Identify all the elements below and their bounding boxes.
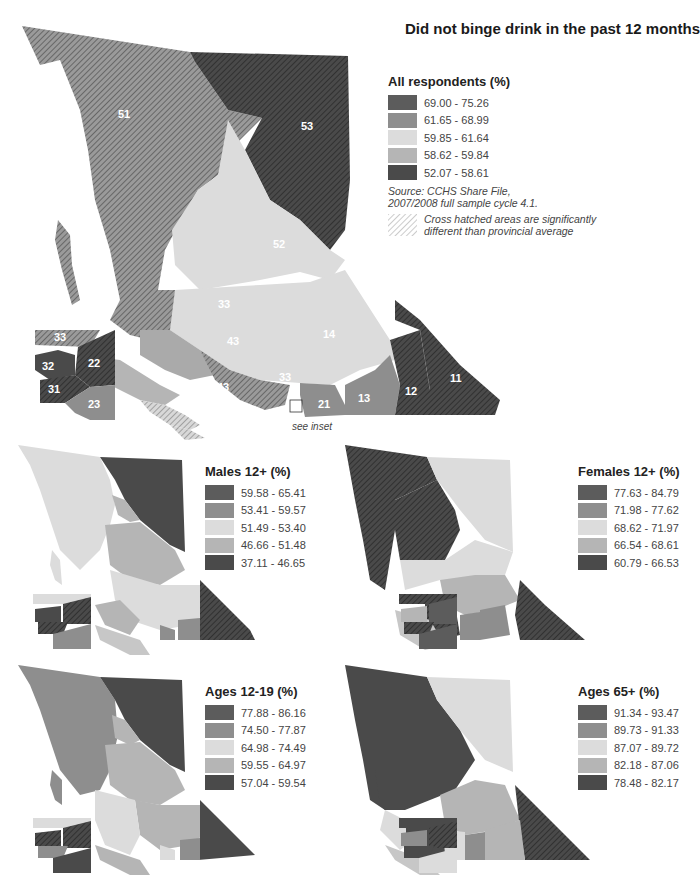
legend-label: 77.88 - 86.16 (241, 707, 306, 719)
ages-12-19-legend: Ages 12-19 (%) 77.88 - 86.16 74.50 - 77.… (205, 684, 306, 792)
legend-label: 69.00 - 75.26 (424, 97, 489, 109)
ages-65-map (345, 660, 605, 894)
inset-label-31: 31 (48, 383, 60, 395)
main-inset: 33 22 32 31 23 (30, 325, 115, 420)
inset-label-22: 22 (88, 357, 100, 369)
legend-swatch (388, 113, 417, 128)
legend-swatch (388, 148, 417, 163)
legend-label: 91.34 - 93.47 (614, 707, 679, 719)
legend-label: 74.50 - 77.87 (241, 724, 306, 736)
ages-12-19-inset (33, 818, 91, 873)
legend-label: 77.63 - 84.79 (614, 487, 679, 499)
legend-label: 78.48 - 82.17 (614, 777, 679, 789)
label-11: 11 (450, 372, 462, 384)
label-42: 42 (239, 407, 251, 419)
males-inset (33, 594, 91, 649)
label-14: 14 (323, 328, 336, 340)
region-42 (140, 400, 200, 430)
legend-title: Females 12+ (%) (578, 464, 680, 479)
legend-label: 87.07 - 89.72 (614, 742, 679, 754)
inset-marker (290, 400, 302, 412)
females-legend: Females 12+ (%) 77.63 - 84.79 71.98 - 77… (578, 464, 680, 572)
legend-label: 60.79 - 66.53 (614, 557, 679, 569)
legend-title: All respondents (%) (388, 74, 596, 89)
label-21: 21 (318, 398, 330, 410)
hatch-note-line-2: different than provincial average (424, 225, 596, 237)
legend-label: 37.11 - 46.65 (241, 557, 305, 569)
legend-label: 57.04 - 59.54 (241, 777, 306, 789)
legend-title: Males 12+ (%) (205, 464, 306, 479)
label-33a: 33 (218, 298, 230, 310)
males-legend: Males 12+ (%) 59.58 - 65.41 53.41 - 59.5… (205, 464, 306, 572)
label-52: 52 (273, 238, 285, 250)
label-13: 13 (358, 392, 370, 404)
legend-label: 46.66 - 51.48 (241, 539, 306, 551)
main-legend: All respondents (%) 69.00 - 75.26 61.65 … (388, 74, 596, 237)
inset-label-33: 33 (54, 331, 66, 343)
legend-label: 64.98 - 74.49 (241, 742, 306, 754)
females-map (345, 440, 605, 660)
hatch-note-line-1: Cross hatched areas are significantly (424, 213, 596, 225)
legend-label: 53.41 - 59.57 (241, 504, 306, 516)
haida-gwaii (55, 220, 80, 305)
inset-label-32: 32 (42, 360, 54, 372)
legend-label: 59.58 - 65.41 (241, 487, 306, 499)
legend-label: 59.85 - 61.64 (424, 132, 489, 144)
legend-label: 66.54 - 68.61 (614, 539, 679, 551)
label-43a: 43 (227, 335, 239, 347)
source-line-1: Source: CCHS Share File, (388, 185, 596, 197)
inset-label-23: 23 (88, 398, 100, 410)
legend-label: 52.07 - 58.61 (424, 167, 489, 179)
legend-swatch (388, 95, 417, 110)
legend-label: 82.18 - 87.06 (614, 759, 679, 771)
legend-label: 89.73 - 91.33 (614, 724, 679, 736)
ages-65-legend: Ages 65+ (%) 91.34 - 93.47 89.73 - 91.33… (578, 684, 679, 792)
legend-label: 61.65 - 68.99 (424, 114, 489, 126)
label-43b: 43 (217, 381, 229, 393)
label-33b: 33 (279, 371, 291, 383)
label-12: 12 (405, 385, 417, 397)
legend-label: 58.62 - 59.84 (424, 149, 489, 161)
legend-label: 71.98 - 77.62 (614, 504, 679, 516)
source-line-2: 2007/2008 full sample cycle 4.1. (388, 197, 596, 209)
label-53: 53 (301, 120, 313, 132)
label-41: 41 (265, 428, 277, 440)
legend-title: Ages 12-19 (%) (205, 684, 306, 699)
hatch-note: Cross hatched areas are significantly di… (388, 213, 596, 237)
hatch-swatch-icon (388, 214, 417, 236)
label-51: 51 (118, 108, 130, 120)
females-inset (399, 594, 457, 649)
legend-label: 51.49 - 53.40 (241, 522, 306, 534)
legend-swatch (388, 130, 417, 145)
see-inset-label: see inset (292, 421, 332, 432)
legend-title: Ages 65+ (%) (578, 684, 679, 699)
ages-65-inset (399, 818, 457, 873)
legend-label: 59.55 - 64.97 (241, 759, 306, 771)
legend-swatch (388, 165, 417, 180)
source-note: Source: CCHS Share File, 2007/2008 full … (388, 185, 596, 209)
legend-label: 68.62 - 71.97 (614, 522, 679, 534)
